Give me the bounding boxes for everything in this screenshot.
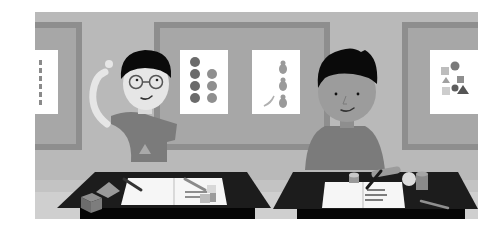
desk-front (297, 209, 465, 219)
shapes-poster (430, 50, 478, 114)
pears-poster (252, 50, 300, 114)
hand (105, 60, 113, 68)
center-board (154, 22, 330, 150)
desk-left (57, 172, 271, 219)
left-board (35, 22, 82, 150)
desk-front (80, 208, 255, 219)
classroom-illustration (35, 12, 478, 219)
vertical-dots-poster (35, 50, 58, 114)
circles-poster (180, 50, 228, 114)
tape-roll (349, 173, 359, 184)
right-board (402, 22, 478, 150)
ball (402, 172, 416, 186)
pears-icon (279, 61, 287, 109)
cup (416, 172, 428, 191)
desk-right (273, 170, 478, 219)
